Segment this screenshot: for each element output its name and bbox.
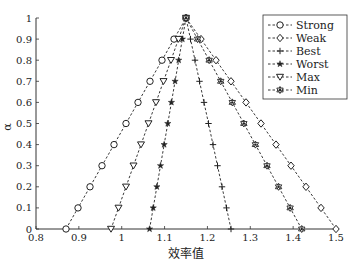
- legend-label: Max: [296, 71, 321, 84]
- triangle-down-marker-icon: [168, 58, 175, 64]
- efficiency-alpha-chart: 0.80.911.11.21.31.41.500.10.20.30.40.50.…: [0, 0, 353, 265]
- y-tick-label: 0.9: [16, 34, 32, 45]
- circle-marker-icon: [159, 57, 165, 63]
- x-tick-label: 1.3: [242, 232, 258, 243]
- star-marker-icon: [157, 162, 163, 168]
- circle-legend-icon: [277, 22, 283, 28]
- plus-marker-icon: [228, 226, 234, 232]
- x-tick-label: 0.9: [71, 232, 87, 243]
- circle-marker-icon: [135, 99, 141, 105]
- plus-marker-icon: [219, 184, 225, 190]
- series-best: [183, 15, 234, 232]
- x-tick-label: 1.5: [328, 232, 344, 243]
- circle-marker-icon: [75, 205, 81, 211]
- hexagram-marker-icon: [287, 204, 293, 211]
- y-tick-label: 0.7: [16, 76, 32, 87]
- plus-marker-icon: [201, 99, 207, 105]
- x-tick-label: 1: [119, 232, 125, 243]
- star-marker-icon: [146, 226, 152, 232]
- y-tick-label: 0.5: [16, 118, 32, 129]
- legend-label: Worst: [296, 58, 329, 71]
- y-tick-label: 0.1: [16, 202, 32, 213]
- y-axis-label: α: [1, 123, 14, 131]
- circle-marker-icon: [87, 184, 93, 190]
- triangle-down-marker-icon: [160, 79, 167, 85]
- triangle-down-marker-icon: [115, 205, 122, 211]
- star-marker-icon: [172, 78, 178, 84]
- series-max: [108, 15, 190, 232]
- hexagram-marker-icon: [218, 78, 224, 85]
- legend-label: Min: [296, 84, 318, 97]
- plus-marker-icon: [214, 163, 220, 169]
- triangle-down-marker-icon: [138, 142, 145, 148]
- y-tick-label: 0.3: [16, 160, 32, 171]
- triangle-down-marker-icon: [145, 121, 152, 127]
- circle-marker-icon: [111, 141, 117, 147]
- legend-label: Best: [296, 45, 321, 58]
- circle-marker-icon: [63, 226, 69, 232]
- star-marker-icon: [161, 141, 167, 147]
- triangle-down-marker-icon: [123, 184, 130, 190]
- series-strong: [63, 15, 189, 232]
- x-tick-label: 1.1: [157, 232, 173, 243]
- circle-marker-icon: [99, 163, 105, 169]
- y-tick-label: 0.2: [16, 181, 32, 192]
- y-tick-label: 0.6: [16, 97, 32, 108]
- plus-marker-icon: [205, 120, 211, 126]
- triangle-down-marker-icon: [130, 163, 137, 169]
- circle-marker-icon: [147, 78, 153, 84]
- hexagram-marker-icon: [206, 57, 212, 64]
- legend-label: Strong: [296, 19, 334, 32]
- circle-marker-icon: [123, 120, 129, 126]
- x-axis-label: 效率值: [168, 246, 204, 261]
- plus-marker-icon: [192, 57, 198, 63]
- y-tick-label: 0.8: [16, 55, 32, 66]
- series-worst: [146, 15, 189, 232]
- hexagram-marker-icon: [275, 183, 281, 190]
- triangle-down-marker-icon: [153, 100, 160, 106]
- star-marker-icon: [176, 57, 182, 63]
- plus-marker-icon: [210, 141, 216, 147]
- plus-marker-icon: [223, 205, 229, 211]
- legend: StrongWeakBestWorstMaxMin: [263, 15, 347, 99]
- legend-label: Weak: [296, 32, 326, 45]
- y-tick-label: 0: [26, 224, 32, 235]
- x-tick-label: 1.4: [285, 232, 301, 243]
- plus-marker-icon: [196, 78, 202, 84]
- y-tick-label: 0.4: [16, 139, 32, 150]
- y-tick-label: 1: [26, 13, 32, 24]
- hexagram-marker-icon: [229, 99, 235, 106]
- hexagram-marker-icon: [241, 120, 247, 127]
- hexagram-marker-icon: [252, 141, 258, 148]
- x-tick-label: 1.2: [199, 232, 215, 243]
- hexagram-marker-icon: [264, 162, 270, 169]
- plus-marker-icon: [187, 36, 193, 42]
